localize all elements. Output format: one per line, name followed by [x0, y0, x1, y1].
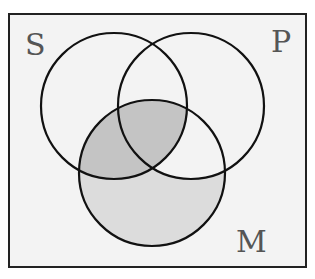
venn-diagram: S P M	[0, 0, 315, 279]
label-s: S	[25, 27, 46, 62]
label-m: M	[236, 224, 267, 259]
label-p: P	[271, 24, 291, 59]
